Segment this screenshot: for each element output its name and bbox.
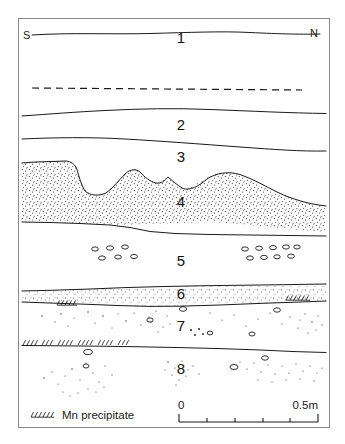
geological-cross-section-figure: 1 2 3 4 5 6 7 8 S N Mn precipitate 0 0.5… <box>0 0 345 444</box>
unit-label-6: 6 <box>177 285 185 302</box>
scale-start-label: 0 <box>178 399 184 411</box>
cross-section-svg: 1 2 3 4 5 6 7 8 S N Mn precipitate 0 0.5… <box>0 0 345 444</box>
scale-bar: 0 0.5m <box>178 399 318 422</box>
direction-label-north: N <box>310 27 318 39</box>
unit-label-4: 4 <box>177 193 185 210</box>
mn-precipitate-unit-7-8-boundary <box>23 340 129 345</box>
unit-label-8: 8 <box>177 360 185 377</box>
unit-5-pebble-cluster-right <box>242 245 301 260</box>
direction-label-south: S <box>23 29 30 41</box>
legend-mn-precipitate-label: Mn precipitate <box>62 409 134 421</box>
scale-bar-line <box>179 414 318 422</box>
unit-7-clasts <box>147 307 281 336</box>
boundary-unit-2-3 <box>22 138 326 151</box>
boundary-unit-7-8 <box>22 346 326 353</box>
unit-label-2: 2 <box>177 116 185 133</box>
scale-end-label: 0.5m <box>292 399 318 411</box>
unit-label-7: 7 <box>177 317 185 334</box>
unit-label-5: 5 <box>177 252 185 269</box>
boundary-unit-1-2 <box>22 109 326 116</box>
unit-4-fill <box>19 155 329 240</box>
unit-label-3: 3 <box>177 148 185 165</box>
unit-5-pebble-cluster-left <box>92 245 138 260</box>
unit-1-dashed-horizon <box>32 88 302 90</box>
unit-label-1: 1 <box>177 29 185 46</box>
legend-mn-precipitate-icon <box>31 412 54 417</box>
unit-8-clasts <box>83 349 268 369</box>
